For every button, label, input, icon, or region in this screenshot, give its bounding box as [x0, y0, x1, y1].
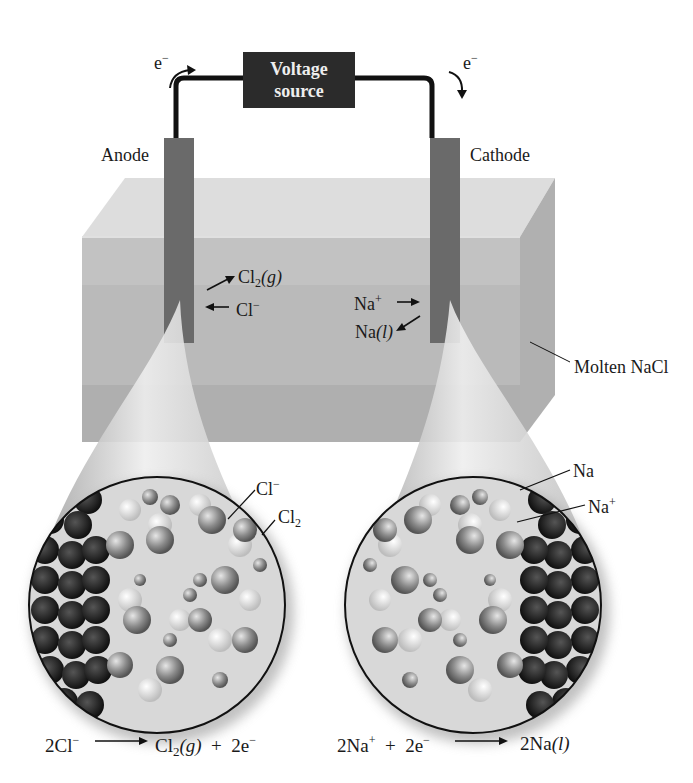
voltage-source-line1: Voltage: [243, 58, 355, 80]
voltage-source-box: Voltage source: [243, 52, 355, 108]
zoom-cl2-label: Cl2: [278, 508, 301, 529]
zoom-cl-ion-label: Cl−: [256, 478, 280, 498]
anode-label: Anode: [101, 146, 149, 164]
anode-half-reaction-rhs: Cl2(g) + 2e−: [155, 733, 256, 760]
zoom-na-label: Na: [573, 462, 594, 480]
cathode-half-reaction-rhs: 2Na(l): [520, 733, 570, 755]
molten-nacl-label: Molten NaCl: [574, 358, 669, 376]
electrolysis-diagram: Voltage source e− e− Anode Cathode Molte…: [0, 0, 693, 783]
anode-half-reaction-lhs: 2Cl−: [45, 733, 79, 757]
cathode-na-ion-label: Na+: [354, 293, 382, 313]
zoom-na-ion-label: Na+: [588, 496, 616, 516]
voltage-source-line2: source: [243, 80, 355, 102]
electron-label-left: e−: [154, 52, 169, 72]
cathode-na-liquid-label: Na(l): [355, 323, 393, 341]
cathode-label: Cathode: [470, 146, 530, 164]
diagram-graphics: [0, 0, 693, 783]
anode-cl2-gas-label: Cl2(g): [238, 268, 282, 289]
cathode-half-reaction-lhs: 2Na+ + 2e−: [337, 733, 430, 757]
electron-label-right: e−: [463, 52, 478, 72]
anode-cl-ion-label: Cl−: [236, 299, 260, 319]
